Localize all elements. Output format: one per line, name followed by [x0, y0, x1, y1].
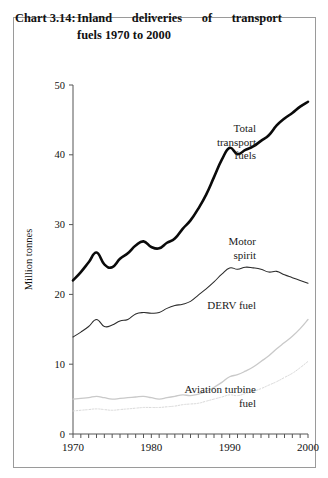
x-minor-tick-marks	[73, 434, 308, 438]
y-tick-label: 0	[60, 429, 65, 440]
series-label-derv-fuel: DERV fuel	[170, 299, 256, 313]
x-tick-label: 1970	[62, 441, 85, 453]
series-line-total-transport-fuels	[73, 102, 308, 281]
y-tick-labels: 01020304050	[55, 80, 66, 440]
y-axis-title: Million tonnes	[23, 229, 34, 291]
data-series-group	[73, 102, 308, 411]
series-label-total-transport-fuels: Total transport fuels	[196, 122, 256, 163]
y-tick-label: 30	[55, 219, 66, 230]
x-tick-label: 1980	[140, 441, 163, 453]
y-tick-label: 10	[55, 359, 66, 370]
y-tick-label: 50	[55, 80, 66, 91]
series-label-motor-spirit: Motor spirit	[196, 235, 256, 262]
y-tick-label: 40	[55, 149, 66, 160]
y-tick-label: 20	[55, 289, 66, 300]
x-tick-label: 2000	[297, 441, 320, 453]
x-tick-label: 1990	[219, 441, 242, 453]
series-label-aviation-turbine-fuel: Aviation turbine fuel	[148, 383, 256, 410]
y-tick-marks	[69, 85, 73, 434]
x-tick-labels: 1970198019902000	[62, 441, 320, 453]
